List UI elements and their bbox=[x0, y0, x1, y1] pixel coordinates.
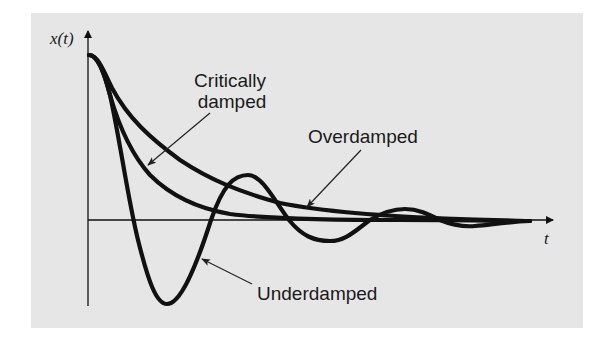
curves bbox=[89, 55, 530, 304]
critically-damped-label-line2: damped bbox=[198, 91, 267, 112]
underdamped-arrow bbox=[202, 259, 252, 284]
annotations: Critically damped Overdamped Underdamped bbox=[148, 70, 418, 304]
overdamped-arrow bbox=[307, 150, 361, 207]
y-axis-label: x(t) bbox=[49, 29, 74, 48]
overdamped-label: Overdamped bbox=[308, 126, 418, 147]
critically-damped-label-line1: Critically bbox=[194, 70, 266, 91]
damping-chart: x(t) t Critically damped Overdamped Unde… bbox=[0, 0, 616, 342]
x-axis-label: t bbox=[544, 229, 550, 248]
underdamped-label: Underdamped bbox=[257, 283, 377, 304]
